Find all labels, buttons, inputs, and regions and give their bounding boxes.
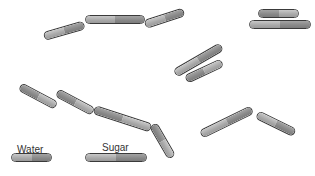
sugar-molecule	[85, 153, 147, 162]
sugar-molecule	[93, 105, 153, 132]
sugar-molecule	[249, 20, 311, 29]
water-molecule	[144, 7, 186, 28]
sugar-molecule	[199, 105, 254, 138]
water-molecule	[55, 88, 95, 115]
water-molecule	[18, 82, 58, 109]
water-molecule	[255, 110, 297, 137]
water-molecule	[149, 122, 176, 159]
water-molecule	[43, 20, 86, 40]
label-sugar: Sugar	[102, 142, 129, 153]
label-water: Water	[17, 144, 43, 155]
sugar-molecule	[85, 15, 145, 24]
water-molecule	[258, 9, 299, 18]
